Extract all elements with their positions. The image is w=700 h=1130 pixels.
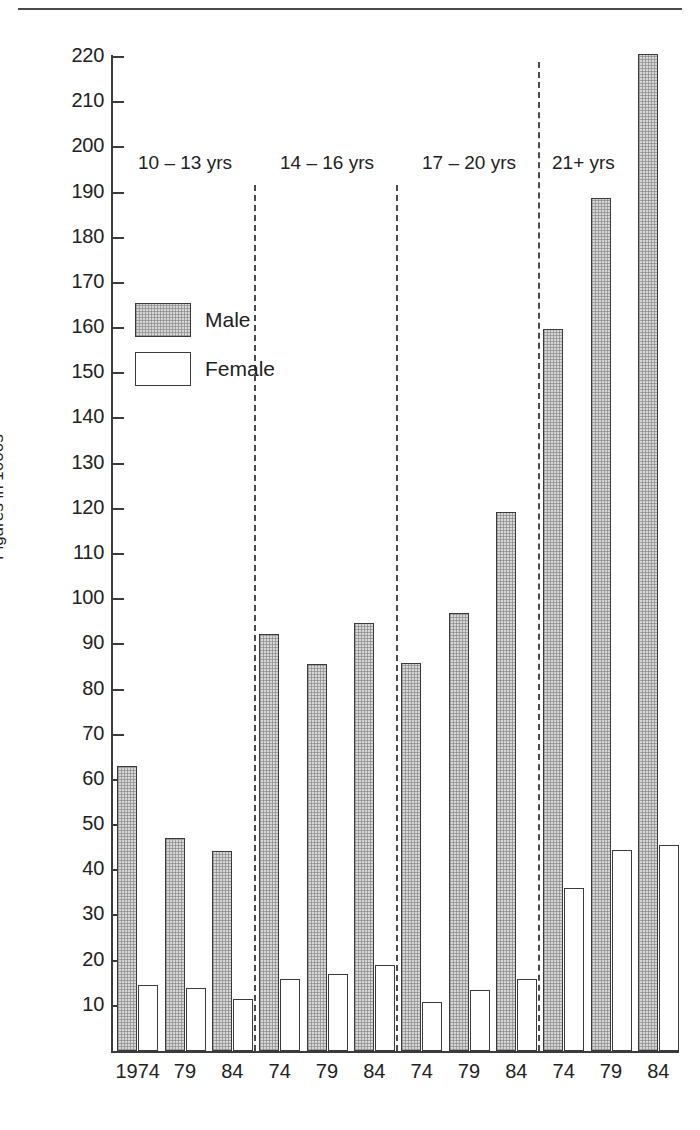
y-tick-label-130: 130 [46,451,104,474]
y-tick-130 [111,463,124,465]
bar-female-74-group4 [564,888,584,1051]
y-tick-label-70: 70 [46,722,104,745]
x-tick-label-10: 79 [587,1060,634,1083]
y-tick-100 [111,598,124,600]
x-tick-label-2: 84 [209,1060,256,1083]
y-tick-label-50: 50 [46,812,104,835]
bar-female-84-group2 [375,965,395,1051]
y-tick-200 [111,146,124,148]
group-label-2: 14 – 16 yrs [256,152,398,174]
bar-male-84-group3 [496,512,516,1051]
group-divider-2 [396,185,398,1051]
bar-female-79-group4 [612,850,632,1051]
legend-label-male: Male [205,308,251,332]
y-tick-label-80: 80 [46,677,104,700]
bar-female-84-group4 [659,845,679,1051]
legend-swatch-female-icon [135,352,191,386]
bar-female-79-group1 [186,988,206,1051]
group-divider-3 [538,62,540,1051]
group-label-3: 17 – 20 yrs [398,152,540,174]
y-tick-label-40: 40 [46,857,104,880]
bar-male-74-group3 [401,663,421,1051]
bar-male-79-group2 [307,664,327,1051]
x-tick-label-5: 84 [351,1060,398,1083]
y-tick-label-60: 60 [46,767,104,790]
y-tick-150 [111,372,124,374]
legend-item-female: Female [135,349,275,389]
y-tick-120 [111,508,124,510]
x-tick-label-9: 74 [540,1060,587,1083]
group-label-4: 21+ yrs [552,152,694,174]
bar-male-1974-group1 [117,766,137,1051]
y-tick-label-20: 20 [46,948,104,971]
y-tick-label-220: 220 [46,44,104,67]
y-tick-label-200: 200 [46,134,104,157]
y-tick-label-170: 170 [46,270,104,293]
bar-female-84-group1 [233,999,253,1051]
y-tick-label-140: 140 [46,405,104,428]
y-tick-label-210: 210 [46,89,104,112]
bar-male-84-group1 [212,851,232,1051]
x-tick-label-7: 79 [445,1060,492,1083]
y-tick-90 [111,643,124,645]
y-tick-label-160: 160 [46,315,104,338]
bar-chart-figure: Figures in 1000s 10203040506070809010011… [0,0,700,1130]
y-tick-80 [111,689,124,691]
legend-swatch-male-icon [135,303,191,337]
x-axis-line [111,1051,679,1053]
y-tick-170 [111,282,124,284]
x-tick-label-11: 84 [635,1060,682,1083]
y-tick-label-90: 90 [46,631,104,654]
bar-female-84-group3 [517,979,537,1051]
y-tick-160 [111,327,124,329]
top-divider-rule [18,8,682,10]
legend-label-female: Female [205,357,275,381]
bar-female-79-group3 [470,990,490,1051]
y-tick-label-10: 10 [46,993,104,1016]
y-tick-label-180: 180 [46,225,104,248]
y-tick-label-190: 190 [46,180,104,203]
bar-female-74-group2 [280,979,300,1051]
y-tick-180 [111,237,124,239]
y-tick-220 [111,56,124,58]
y-tick-label-110: 110 [46,541,104,564]
bar-male-84-group4 [638,54,658,1051]
y-tick-70 [111,734,124,736]
y-tick-label-30: 30 [46,902,104,925]
y-tick-210 [111,101,124,103]
x-tick-label-3: 74 [256,1060,303,1083]
y-tick-110 [111,553,124,555]
y-axis-title: Figures in 1000s [0,434,8,560]
y-tick-140 [111,417,124,419]
bar-female-1974-group1 [138,985,158,1051]
bar-male-79-group1 [165,838,185,1051]
bar-male-84-group2 [354,623,374,1051]
bar-male-74-group2 [259,634,279,1051]
bar-female-79-group2 [328,974,348,1051]
x-tick-label-0: 1974 [114,1060,161,1083]
legend: Male Female [135,300,275,398]
bar-female-74-group3 [422,1002,442,1051]
x-tick-label-4: 79 [303,1060,350,1083]
x-tick-label-1: 79 [161,1060,208,1083]
bar-male-74-group4 [543,329,563,1051]
y-tick-label-150: 150 [46,360,104,383]
bar-male-79-group3 [449,613,469,1051]
bar-male-79-group4 [591,198,611,1051]
legend-item-male: Male [135,300,275,340]
x-tick-label-8: 84 [493,1060,540,1083]
x-tick-label-6: 74 [398,1060,445,1083]
group-label-1: 10 – 13 yrs [114,152,256,174]
y-tick-label-120: 120 [46,496,104,519]
y-tick-190 [111,192,124,194]
y-tick-label-100: 100 [46,586,104,609]
